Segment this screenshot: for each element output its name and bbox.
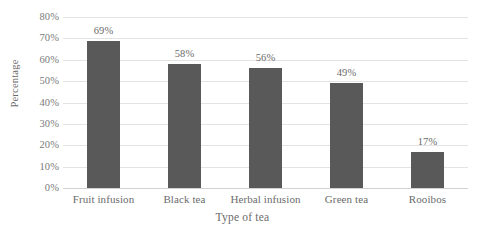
bar-chart: 80%70%60%50%40%30%20%10%0% Percentage Ty… [0,0,485,238]
axis-baseline [63,188,468,189]
bar[interactable] [249,68,282,188]
gridline [63,17,468,18]
bar-value-label: 58% [150,48,220,59]
y-axis-tick-labels: 80%70%60%50%40%30%20%10%0% [15,17,59,188]
bar-value-label: 69% [69,25,139,36]
gridline [63,38,468,39]
y-axis-tick-label: 70% [19,33,59,43]
y-axis-tick-label: 0% [19,183,59,193]
bar[interactable] [87,41,120,188]
y-axis-tick-label: 50% [19,76,59,86]
bar-value-label: 17% [393,136,463,147]
bar[interactable] [411,152,444,188]
plot-area [63,17,468,188]
bar-value-label: 49% [312,67,382,78]
y-axis-tick-label: 30% [19,119,59,129]
x-axis-tick-label: Rooibos [373,193,483,205]
y-axis-tick-label: 10% [19,162,59,172]
y-axis-tick-label: 80% [19,12,59,22]
bar[interactable] [330,83,363,188]
y-axis-tick-label: 60% [19,55,59,65]
y-axis-tick-label: 20% [19,140,59,150]
bar-value-label: 56% [231,52,301,63]
y-axis-tick-label: 40% [19,98,59,108]
y-axis-title: Percentage [9,39,20,129]
x-axis-title: Type of tea [0,211,485,223]
bar[interactable] [168,64,201,188]
